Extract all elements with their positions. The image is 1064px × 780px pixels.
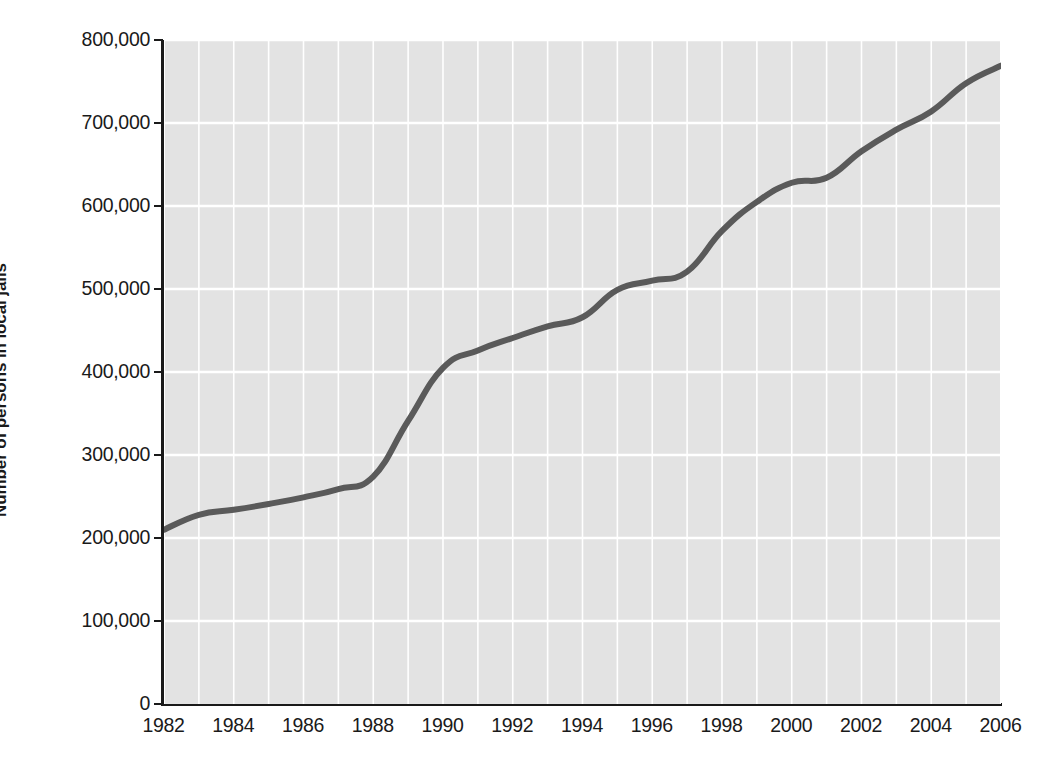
y-tick-label: 300,000 — [58, 445, 150, 465]
x-tick-label: 2006 — [979, 714, 1021, 737]
x-tick-label: 1990 — [421, 714, 463, 737]
plot-area — [164, 40, 1001, 704]
x-tick-label: 1986 — [282, 714, 324, 737]
y-axis-tick-labels: 800,000700,000600,000500,000400,000300,0… — [58, 0, 150, 780]
y-tick-label: 600,000 — [58, 196, 150, 216]
y-tick-label: 100,000 — [58, 611, 150, 631]
x-tick-label: 1984 — [212, 714, 254, 737]
x-tick-label: 2004 — [910, 714, 952, 737]
data-series-line — [164, 40, 1001, 704]
y-tick-label: 800,000 — [58, 30, 150, 50]
y-tick-label: 400,000 — [58, 362, 150, 382]
x-tick-label: 1988 — [352, 714, 394, 737]
y-tick-label: 0 — [58, 694, 150, 714]
x-axis-tick-labels: 1982198419861988199019921994199619982000… — [0, 714, 1064, 748]
series-path — [164, 66, 1001, 530]
y-tick-label: 500,000 — [58, 279, 150, 299]
x-tick-label: 2000 — [770, 714, 812, 737]
x-tick-label: 1982 — [142, 714, 184, 737]
x-tick-label: 2002 — [840, 714, 882, 737]
x-tick-label: 1998 — [700, 714, 742, 737]
x-tick-label: 1996 — [631, 714, 673, 737]
x-tick-label: 1992 — [491, 714, 533, 737]
y-tick-label: 200,000 — [58, 528, 150, 548]
y-tick-label: 700,000 — [58, 113, 150, 133]
chart-figure: Number of persons in local jails 800,000… — [0, 0, 1064, 780]
x-tick-label: 1994 — [561, 714, 603, 737]
